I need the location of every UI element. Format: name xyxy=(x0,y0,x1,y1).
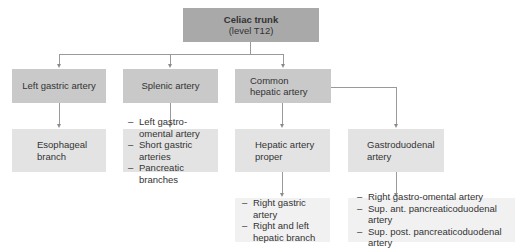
arrow-icon xyxy=(281,64,285,68)
connector-level2-horizontal xyxy=(59,54,284,55)
node-celiac-trunk-title: Celiac trunk xyxy=(224,14,278,26)
list-item: Pancreatic branches xyxy=(128,162,218,185)
list-item: Left gastro-omental artery xyxy=(128,116,218,139)
node-celiac-trunk-subtitle: (level T12) xyxy=(229,25,274,37)
list-item: Sup. ant. pancreaticoduodenal artery xyxy=(357,203,515,226)
node-label: Gastroduodenal artery xyxy=(367,139,435,162)
node-hepatic-artery-proper: Hepatic artery proper xyxy=(235,129,330,172)
hepatic-proper-branch-list: Right gastric artery Right and left hepa… xyxy=(242,197,330,243)
node-hepatic-proper-branches: Right gastric artery Right and left hepa… xyxy=(235,198,330,242)
connector-left-gastric-down xyxy=(59,103,60,125)
node-gastroduodenal-artery: Gastroduodenal artery xyxy=(348,129,444,172)
arrow-icon xyxy=(168,64,172,68)
node-esophageal-branch: Esophageal branch xyxy=(12,129,106,172)
list-item: Right gastric artery xyxy=(242,197,330,220)
connector-common-hepatic-down xyxy=(282,103,283,125)
node-label: Esophageal branch xyxy=(37,139,87,162)
gastroduodenal-branch-list: Right gastro-omental artery Sup. ant. pa… xyxy=(357,191,515,249)
arrow-icon xyxy=(394,124,398,128)
list-item: Right and left hepatic branch xyxy=(242,220,330,243)
connector-root-down xyxy=(250,42,251,54)
node-left-gastric-artery: Left gastric artery xyxy=(12,69,106,103)
node-celiac-trunk: Celiac trunk (level T12) xyxy=(183,8,319,42)
node-splenic-branches: Left gastro-omental artery Short gastric… xyxy=(123,129,218,172)
arrow-icon xyxy=(57,64,61,68)
arrow-icon xyxy=(280,124,284,128)
node-gastroduodenal-branches: Right gastro-omental artery Sup. ant. pa… xyxy=(348,198,515,242)
connector-to-gastroduodenal xyxy=(396,87,397,125)
list-item: Sup. post. pancreaticoduodenal artery xyxy=(357,226,515,249)
arrow-icon xyxy=(57,124,61,128)
node-common-hepatic-artery: Common hepatic artery xyxy=(235,69,331,103)
connector-common-hepatic-right xyxy=(330,87,397,88)
node-splenic-artery: Splenic artery xyxy=(123,69,218,103)
list-item: Short gastric arteries xyxy=(128,139,218,162)
node-label: Left gastric artery xyxy=(22,80,95,92)
list-item: Right gastro-omental artery xyxy=(357,191,515,203)
node-label: Hepatic artery proper xyxy=(255,139,316,162)
node-label: Splenic artery xyxy=(141,80,199,92)
splenic-branch-list: Left gastro-omental artery Short gastric… xyxy=(128,116,218,185)
connector-hepatic-proper-down xyxy=(282,172,283,194)
node-label: Common hepatic artery xyxy=(250,75,311,98)
